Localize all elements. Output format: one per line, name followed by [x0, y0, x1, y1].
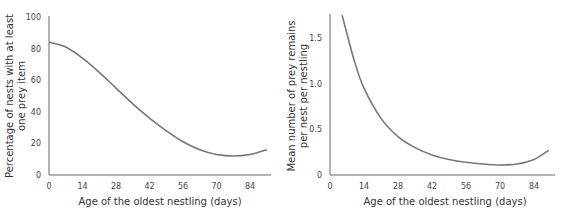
left-data-line [49, 42, 267, 156]
left-x-axis-label: Age of the oldest nestling (days) [78, 196, 241, 207]
left-y-axis-label-line1: Percentage of nests with at least [4, 14, 15, 178]
x-tick-label: 28 [393, 182, 403, 191]
right-x-axis-label: Age of the oldest nestling (days) [363, 196, 526, 207]
y-tick-label: 0 [317, 171, 322, 180]
figure: 020406080100 0142842567084 Age of the ol… [0, 0, 562, 213]
y-tick-label: 1.5 [309, 34, 322, 43]
x-tick-label: 0 [327, 182, 332, 191]
left-chart: 020406080100 0142842567084 Age of the ol… [4, 13, 271, 207]
y-tick-label: 0 [36, 171, 41, 180]
y-tick-label: 80 [31, 45, 41, 54]
right-y-axis-label-line2: per nest per nestling [298, 44, 309, 148]
x-tick-label: 84 [529, 182, 539, 191]
x-tick-label: 28 [111, 182, 121, 191]
left-y-axis-label-line2: one prey item [16, 61, 27, 131]
x-tick-label: 70 [495, 182, 505, 191]
right-y-axis-label-line1: Mean number of prey remains [286, 20, 297, 171]
y-tick-label: 60 [31, 76, 41, 85]
x-tick-label: 56 [178, 182, 188, 191]
y-tick-label: 1.0 [309, 80, 322, 89]
y-tick-label: 40 [31, 108, 41, 117]
y-tick-label: 20 [31, 139, 41, 148]
y-tick-label: 0.5 [309, 125, 322, 134]
x-tick-label: 56 [461, 182, 471, 191]
x-tick-label: 0 [46, 182, 51, 191]
right-chart: 00.51.01.5 0142842567084 Age of the olde… [286, 14, 555, 207]
x-tick-label: 14 [359, 182, 369, 191]
right-y-tick-labels: 00.51.01.5 [309, 34, 322, 180]
right-data-line [342, 15, 548, 165]
x-tick-label: 42 [144, 182, 154, 191]
y-tick-label: 100 [26, 13, 41, 22]
left-x-tick-labels: 0142842567084 [46, 182, 255, 191]
x-tick-label: 70 [211, 182, 221, 191]
left-y-tick-labels: 020406080100 [26, 13, 41, 180]
x-tick-label: 14 [77, 182, 87, 191]
right-x-tick-labels: 0142842567084 [327, 182, 539, 191]
x-tick-label: 42 [427, 182, 437, 191]
x-tick-label: 84 [245, 182, 255, 191]
